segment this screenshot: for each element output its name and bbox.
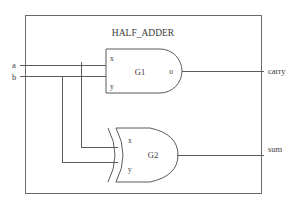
gate-g1-pin-y-label: y <box>110 82 114 91</box>
gate-g2-pin-x-label: x <box>128 136 132 145</box>
input-label-b: b <box>12 72 16 82</box>
gate-g1-pin-o-label: o <box>169 67 173 76</box>
gate-g2-label: G2 <box>148 150 158 160</box>
output-label-carry: carry <box>268 66 286 76</box>
gate-g1-pin-x-label: x <box>110 54 114 63</box>
net-a-to-g2-x <box>81 65 118 147</box>
module-title: HALF_ADDER <box>112 28 175 38</box>
module-boundary <box>26 16 262 194</box>
input-label-a: a <box>12 60 16 70</box>
gate-g1-label: G1 <box>135 67 145 77</box>
half-adder-schematic: HALF_ADDER a b carry sum x y G1 o x y G2 <box>0 0 298 209</box>
gate-g2-xor-back-arc <box>108 128 115 182</box>
output-label-sum: sum <box>268 144 283 154</box>
gate-g2-pin-y-label: y <box>128 165 132 174</box>
